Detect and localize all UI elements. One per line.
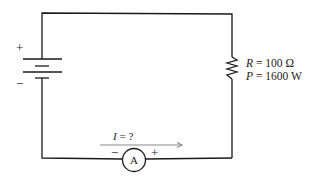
resistor-icon xyxy=(227,57,237,79)
battery-minus-label: − xyxy=(16,76,23,91)
circuit-diagram: + − R = 100 Ω P = 1600 W I = ? A − + xyxy=(0,0,319,184)
wires xyxy=(42,13,232,159)
ammeter-minus-label: − xyxy=(111,145,118,160)
ammeter-plus-label: + xyxy=(151,145,158,160)
ammeter-label: A xyxy=(130,154,138,166)
top-wire xyxy=(42,13,232,59)
battery-icon xyxy=(23,59,62,78)
battery-plus-label: + xyxy=(16,40,23,55)
current-label: I = ? xyxy=(112,130,133,142)
resistance-label: R = 100 Ω xyxy=(245,57,294,69)
power-label: P = 1600 W xyxy=(245,70,302,82)
